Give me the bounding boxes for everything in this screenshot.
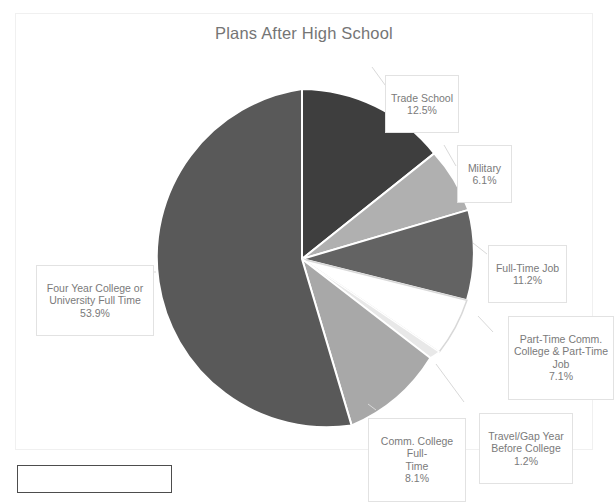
pie-label-travel-gap-text: Travel/Gap Year Before College [488,430,564,455]
leader-line-full-time-job [473,243,487,254]
pie-label-four-year-pct: 53.9% [41,307,149,320]
pie-label-comm-college-text: Comm. College Full- Time [381,435,453,472]
pie-label-comm-college-full-time[interactable]: Comm. College Full- Time 8.1% [368,418,466,502]
legend-placeholder-box[interactable] [17,465,172,493]
leader-line-military [444,145,456,166]
pie-label-trade-school-text: Trade School [391,92,453,104]
pie-label-trade-school-pct: 12.5% [390,104,454,117]
pie-label-full-time-job-text: Full-Time Job [496,262,559,274]
pie-label-travel-gap-year[interactable]: Travel/Gap Year Before College 1.2% [479,413,573,484]
leader-line-part-time [478,316,493,332]
pie-label-part-time-pct: 7.1% [513,370,609,383]
pie-label-part-time-text: Part-Time Comm. College & Part-Time Job [514,333,608,370]
pie-label-full-time-job[interactable]: Full-Time Job 11.2% [488,245,567,303]
pie-label-part-time-comm-college[interactable]: Part-Time Comm. College & Part-Time Job … [508,316,614,400]
pie-label-comm-college-pct: 8.1% [373,472,461,485]
pie-slices [157,89,474,427]
pie-label-military-text: Military [468,162,501,174]
pie-label-four-year-text: Four Year College or University Full Tim… [47,282,143,307]
pie-label-four-year-college[interactable]: Four Year College or University Full Tim… [36,265,154,336]
chart-frame[interactable]: Plans After High School Trade School 12.… [15,13,593,450]
leader-line-travel-gap [436,364,464,402]
pie-label-trade-school[interactable]: Trade School 12.5% [385,75,459,133]
pie-label-military[interactable]: Military 6.1% [457,145,512,203]
pie-label-travel-gap-pct: 1.2% [484,455,568,468]
pie-label-full-time-job-pct: 11.2% [493,274,562,287]
pie-label-military-pct: 6.1% [462,174,507,187]
